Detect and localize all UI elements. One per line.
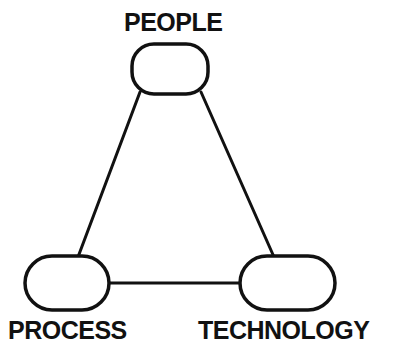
node-people[interactable]	[132, 44, 208, 94]
node-label-process: PROCESS	[8, 318, 127, 343]
diagram-canvas: PEOPLE PROCESS TECHNOLOGY	[0, 0, 402, 352]
node-label-people: PEOPLE	[124, 10, 222, 35]
diagram-graphics	[0, 0, 402, 352]
node-label-technology: TECHNOLOGY	[198, 318, 369, 343]
connector-people-process	[78, 92, 140, 257]
node-technology[interactable]	[240, 256, 335, 310]
connector-people-technology	[201, 92, 274, 257]
node-process[interactable]	[25, 256, 109, 310]
